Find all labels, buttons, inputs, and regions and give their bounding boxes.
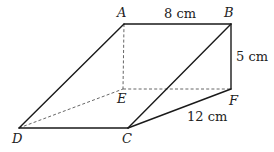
prism-drawing <box>0 0 274 152</box>
edge-AD <box>19 24 124 128</box>
dimension-AB: 8 cm <box>164 7 196 20</box>
prism-diagram: A B E F D C 8 cm 5 cm 12 cm <box>0 0 274 152</box>
vertex-label-D: D <box>12 132 22 145</box>
edge-AE <box>123 24 124 89</box>
vertex-label-C: C <box>122 132 132 145</box>
dimension-CF: 12 cm <box>187 110 227 123</box>
vertex-label-A: A <box>117 6 126 19</box>
vertex-label-E: E <box>117 92 127 105</box>
vertex-label-B: B <box>224 6 234 19</box>
dimension-BF: 5 cm <box>236 50 268 63</box>
edge-DE <box>19 89 123 128</box>
vertex-label-F: F <box>229 94 238 107</box>
